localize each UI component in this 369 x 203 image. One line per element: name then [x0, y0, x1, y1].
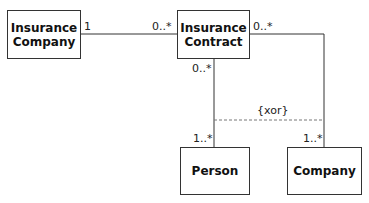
multiplicity-contract-right: 0..*: [253, 21, 273, 33]
class-name: Company: [293, 164, 356, 178]
xor-constraint-label: {xor}: [257, 105, 288, 117]
multiplicity-company: 1..*: [303, 133, 323, 145]
class-person[interactable]: Person: [180, 147, 250, 195]
association-line-contract-company: [250, 34, 324, 147]
class-name: Person: [192, 164, 239, 178]
class-name: Insurance Contract: [178, 21, 249, 49]
multiplicity-contract-bottom: 0..*: [192, 63, 212, 75]
multiplicity-insurance-company: 1: [84, 21, 91, 33]
multiplicity-contract-left: 0..*: [152, 21, 172, 33]
multiplicity-person: 1..*: [193, 133, 213, 145]
class-insurance-company[interactable]: Insurance Company: [7, 10, 81, 59]
class-company[interactable]: Company: [287, 147, 362, 195]
class-insurance-contract[interactable]: Insurance Contract: [177, 10, 250, 59]
class-name: Insurance Company: [8, 21, 80, 49]
